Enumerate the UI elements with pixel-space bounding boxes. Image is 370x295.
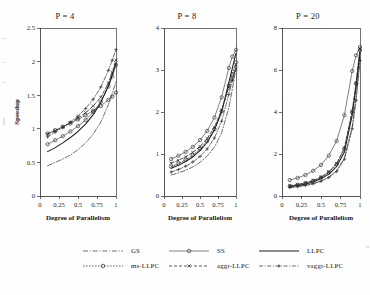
legend-entry: ms-LLPC — [82, 258, 159, 273]
chart-panel: P = 80123400.250.50.751Degree of Paralle… — [128, 0, 246, 240]
data-point-marker — [220, 120, 223, 123]
panel-title: P = 4 — [4, 11, 126, 21]
legend: GSSSLLPCms-LLPCaggr-LLPCvaggr-LLPC — [0, 243, 370, 295]
series-line — [290, 52, 360, 186]
legend-label: LLPC — [300, 247, 324, 254]
x-tick-label: 0 — [280, 201, 284, 208]
y-tick-label: 0 — [32, 192, 36, 199]
legend-label: SS — [210, 247, 225, 254]
x-tick-label: 0 — [38, 201, 42, 208]
x-tick-label: 0.75 — [335, 201, 347, 208]
data-point-marker — [227, 93, 230, 96]
x-tick-label: 0.25 — [296, 201, 308, 208]
x-tick-label: 0.75 — [212, 201, 224, 208]
x-tick-label: 0 — [162, 201, 166, 208]
panel-container: P = 400.511.522.500.250.50.751Degree of … — [0, 0, 370, 240]
data-point-marker — [170, 170, 173, 173]
x-tick-label: 0.75 — [91, 201, 103, 208]
plot-area: 0123400.250.50.751Degree of Parallelism — [128, 0, 246, 240]
data-point-marker — [177, 159, 180, 162]
y-tick-label: 1 — [156, 150, 159, 157]
plot-area: 00.511.522.500.250.50.751Degree of Paral… — [4, 0, 126, 240]
series-line — [171, 66, 236, 172]
legend-swatch — [82, 246, 124, 256]
legend-swatch — [82, 261, 124, 271]
legend-label: ms-LLPC — [124, 262, 159, 269]
data-point-marker — [99, 85, 102, 88]
data-point-marker — [107, 69, 110, 72]
x-tick-label: 0.25 — [176, 201, 188, 208]
data-point-marker — [184, 164, 187, 167]
panel-title: P = 8 — [128, 11, 246, 21]
x-axis-title: Degree of Parallelism — [289, 214, 353, 222]
y-tick-label: 4 — [274, 108, 278, 115]
legend-entry: GS — [82, 243, 140, 258]
series-line — [48, 50, 116, 137]
data-point-marker — [99, 96, 102, 99]
legend-swatch — [258, 246, 300, 256]
x-tick-label: 1 — [114, 201, 117, 208]
legend-row: ms-LLPCaggr-LLPCvaggr-LLPC — [0, 258, 370, 273]
data-point-marker — [111, 59, 114, 62]
legend-entry: vaggr-LLPC — [258, 258, 343, 273]
legend-entry: aggr-LLPC — [168, 258, 250, 273]
y-tick-label: 1 — [32, 125, 35, 132]
series-line — [290, 49, 360, 186]
data-point-marker — [351, 127, 354, 130]
legend-swatch — [258, 261, 300, 271]
series-line — [290, 50, 360, 186]
series-line — [290, 47, 360, 180]
y-tick-label: 2.5 — [27, 24, 36, 31]
x-tick-label: 0.5 — [196, 201, 205, 208]
y-tick-label: 3 — [156, 66, 160, 73]
legend-entry: SS — [168, 243, 225, 258]
x-tick-label: 1 — [358, 201, 361, 208]
legend-swatch — [168, 261, 210, 271]
legend-label: aggr-LLPC — [210, 262, 250, 269]
y-axis-title: Speedup — [13, 99, 21, 125]
y-tick-label: 1.5 — [27, 92, 36, 99]
y-tick-label: 0 — [274, 192, 278, 199]
legend-entry: LLPC — [258, 243, 324, 258]
data-point-marker — [114, 48, 117, 51]
data-point-marker — [170, 162, 173, 165]
x-tick-label: 0.5 — [74, 201, 83, 208]
x-tick-label: 0.5 — [317, 201, 326, 208]
series-line — [171, 69, 236, 163]
x-axis-title: Degree of Parallelism — [46, 214, 110, 222]
x-axis-title: Degree of Parallelism — [168, 214, 232, 222]
series-line — [171, 53, 236, 168]
legend-swatch — [168, 246, 210, 256]
legend-label: vaggr-LLPC — [300, 262, 343, 269]
y-tick-label: 2 — [32, 58, 35, 65]
chart-panel: P = 200246800.250.50.751Degree of Parall… — [246, 0, 370, 240]
y-tick-label: 0.5 — [27, 159, 36, 166]
y-tick-label: 0 — [156, 192, 160, 199]
x-tick-label: 1 — [234, 201, 237, 208]
y-tick-label: 8 — [274, 24, 278, 31]
chart-panel: P = 400.511.522.500.250.50.751Degree of … — [4, 0, 126, 240]
panel-title: P = 20 — [246, 11, 370, 21]
figure-speedup-vs-parallelism: P = 400.511.522.500.250.50.751Degree of … — [0, 0, 370, 295]
plot-area: 0246800.250.50.751Degree of Parallelism — [246, 0, 370, 240]
y-tick-label: 6 — [274, 66, 278, 73]
y-tick-label: 4 — [156, 24, 160, 31]
legend-row: GSSSLLPC — [0, 243, 370, 258]
data-point-marker — [177, 168, 180, 171]
legend-label: GS — [124, 247, 140, 254]
x-tick-label: 0.25 — [53, 201, 65, 208]
data-point-marker — [335, 170, 338, 173]
data-point-marker — [92, 104, 95, 107]
y-tick-label: 2 — [156, 108, 159, 115]
y-tick-label: 2 — [274, 150, 277, 157]
series-line — [48, 82, 116, 166]
